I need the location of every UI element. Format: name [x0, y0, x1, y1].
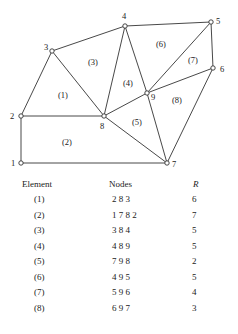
- cell-nodes: 4 9 5: [109, 269, 192, 285]
- node-3: [50, 49, 54, 53]
- table-row: (4) 4 8 9 5: [0, 238, 233, 254]
- cell-r: 5: [192, 269, 233, 285]
- cell-element: (5): [0, 254, 109, 270]
- cell-r: 6: [192, 192, 233, 208]
- cell-element: (7): [0, 285, 109, 301]
- cell-r: 4: [192, 285, 233, 301]
- node-label-5: 5: [216, 16, 220, 26]
- table-row: (7) 5 9 6 4: [0, 285, 233, 301]
- node-2: [19, 114, 23, 118]
- cell-r: 2: [192, 254, 233, 270]
- cell-nodes: 3 8 4: [109, 223, 192, 239]
- element-labels: (1) (2) (3) (4) (5) (6) (7) (8): [58, 39, 198, 147]
- cell-nodes: 1 7 8 2: [109, 207, 192, 223]
- table-row: (1) 2 8 3 6: [0, 192, 233, 208]
- node-label-8: 8: [100, 121, 104, 131]
- element-label-8: (8): [172, 95, 182, 105]
- table-row: (8) 6 9 7 3: [0, 300, 233, 316]
- mesh-edges: [21, 22, 213, 163]
- node-labels: 1 2 3 4 5 6 7 8 9: [10, 11, 224, 169]
- cell-r: 5: [192, 223, 233, 239]
- node-8: [102, 114, 106, 118]
- cell-r: 5: [192, 238, 233, 254]
- node-7: [165, 161, 169, 165]
- cell-element: (3): [0, 223, 109, 239]
- table-row: (6) 4 9 5 5: [0, 269, 233, 285]
- cell-r: 3: [192, 300, 233, 316]
- element-label-1: (1): [58, 90, 68, 100]
- cell-nodes: 5 9 6: [109, 285, 192, 301]
- table-row: (3) 3 8 4 5: [0, 223, 233, 239]
- finite-element-mesh: 1 2 3 4 5 6 7 8 9 (1) (2) (3) (4) (5) (6…: [0, 0, 238, 175]
- node-label-3: 3: [44, 42, 48, 52]
- element-label-6: (6): [156, 39, 166, 49]
- cell-element: (8): [0, 300, 109, 316]
- cell-nodes: 4 8 9: [109, 238, 192, 254]
- node-5: [209, 20, 213, 24]
- element-label-3: (3): [88, 57, 98, 67]
- cell-r: 7: [192, 207, 233, 223]
- node-label-1: 1: [11, 158, 15, 168]
- table-header-row: Element Nodes R: [0, 176, 233, 192]
- cell-element: (2): [0, 207, 109, 223]
- node-9: [145, 91, 149, 95]
- table-row: (2) 1 7 8 2 7: [0, 207, 233, 223]
- node-6: [211, 66, 215, 70]
- element-label-7: (7): [188, 55, 198, 65]
- element-label-2: (2): [62, 137, 72, 147]
- header-nodes: Nodes: [109, 176, 192, 192]
- cell-nodes: 6 9 7: [109, 300, 192, 316]
- cell-element: (1): [0, 192, 109, 208]
- element-label-5: (5): [132, 117, 142, 127]
- cell-nodes: 2 8 3: [109, 192, 192, 208]
- node-4: [123, 24, 127, 28]
- cell-element: (6): [0, 269, 109, 285]
- node-label-2: 2: [10, 111, 14, 121]
- cell-element: (4): [0, 238, 109, 254]
- mesh-nodes: [19, 20, 215, 165]
- header-element: Element: [0, 176, 109, 192]
- table-row: (5) 7 9 8 2: [0, 254, 233, 270]
- cell-nodes: 7 9 8: [109, 254, 192, 270]
- element-table: Element Nodes R (1) 2 8 3 6 (2) 1 7 8 2 …: [0, 176, 233, 316]
- node-label-9: 9: [151, 92, 155, 102]
- node-label-4: 4: [122, 11, 127, 21]
- header-r: R: [192, 176, 233, 192]
- node-1: [19, 161, 23, 165]
- node-label-7: 7: [172, 159, 176, 169]
- element-label-4: (4): [123, 78, 133, 88]
- node-label-6: 6: [220, 64, 224, 74]
